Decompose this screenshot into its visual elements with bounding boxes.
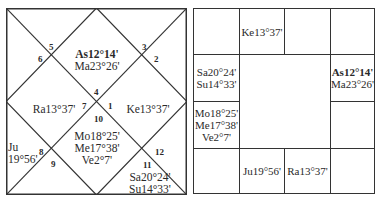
- house-10-planets: Mo18°25' Me17°38' Ve2°7': [68, 130, 126, 166]
- planet-mars: Ma23°26': [331, 78, 374, 90]
- south-indian-chart: Ke13°37' Sa20°24' Su14°33' As12°14' Ma23…: [193, 8, 375, 194]
- planet-ketu: Ke13°37': [122, 103, 174, 115]
- planet-venus: Ve2°7': [202, 131, 231, 143]
- house-number-12: 12: [155, 147, 164, 157]
- house-number-10: 10: [94, 114, 103, 124]
- planet-mars: Ma23°26': [68, 60, 126, 72]
- planet-venus: Ve2°7': [68, 154, 126, 166]
- planet-sun: Su14°33': [197, 78, 237, 90]
- planet-jupiter-degree: 19°56': [8, 153, 42, 165]
- cell-taurus: [284, 8, 331, 55]
- house-number-1: 1: [108, 101, 113, 111]
- planet-mercury: Me17°38': [195, 119, 238, 131]
- cell-aquarius: Sa20°24' Su14°33': [193, 54, 240, 102]
- cell-pisces: [193, 8, 240, 55]
- house-8-planets: Ju 19°56': [8, 141, 42, 165]
- house-number-5: 5: [49, 42, 54, 52]
- north-indian-chart: 5 6 3 2 4 7 1 10 8 9 12 11 As12°14' Ma23…: [6, 8, 187, 195]
- chart-lines: [6, 8, 187, 195]
- planet-jupiter: Ju: [8, 141, 42, 153]
- house-number-2: 2: [154, 54, 159, 64]
- house-1-planets: Ke13°37': [122, 103, 174, 115]
- house-number-4: 4: [94, 87, 99, 97]
- house-number-6: 6: [38, 54, 43, 64]
- planet-jupiter: Ju19°56': [243, 165, 281, 177]
- planet-moon: Mo18°25': [195, 107, 239, 119]
- cell-gemini: [330, 8, 375, 55]
- planet-ketu: Ke13°37': [241, 26, 282, 38]
- cell-capricorn: Mo18°25' Me17°38' Ve2°7': [193, 101, 240, 149]
- house-number-3: 3: [142, 42, 147, 52]
- planet-ascendant: As12°14': [332, 66, 374, 78]
- house-11-planets: Sa20°24' Su14°33': [122, 171, 178, 195]
- planet-saturn: Sa20°24': [197, 66, 236, 78]
- planet-moon: Mo18°25': [68, 130, 126, 142]
- cell-virgo: [330, 148, 375, 194]
- house-number-7: 7: [82, 101, 87, 111]
- house-number-11: 11: [143, 160, 152, 170]
- planet-saturn: Sa20°24': [122, 171, 178, 183]
- cell-aries: Ke13°37': [239, 8, 285, 55]
- house-4-planets: As12°14' Ma23°26': [68, 48, 126, 72]
- cell-leo: [330, 101, 375, 149]
- cell-cancer: As12°14' Ma23°26': [330, 54, 375, 102]
- house-number-9: 9: [51, 159, 56, 169]
- planet-rahu: Ra13°37': [287, 165, 328, 177]
- planet-rahu: Ra13°37': [28, 103, 80, 115]
- house-7-planets: Ra13°37': [28, 103, 80, 115]
- planet-ascendant: As12°14': [68, 48, 126, 60]
- planet-sun: Su14°33': [122, 183, 178, 195]
- cell-libra: Ra13°37': [284, 148, 331, 194]
- cell-sagittarius: [193, 148, 240, 194]
- planet-mercury: Me17°38': [68, 142, 126, 154]
- cell-scorpio: Ju19°56': [239, 148, 285, 194]
